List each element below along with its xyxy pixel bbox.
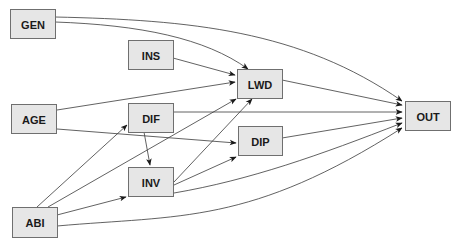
node-label: AGE [22,114,46,126]
edge-abi-to-inv [57,197,126,215]
node-abi: ABI [13,208,58,238]
node-label: OUT [416,111,440,123]
node-label: INS [142,50,160,62]
node-label: ABI [26,217,45,229]
edge-abi-to-dif [37,125,127,207]
edge-dip-to-out [282,118,402,138]
node-age: AGE [12,105,57,134]
edge-inv-to-out [174,123,402,193]
node-dip: DIP [239,127,283,156]
edge-lwd-to-out [282,80,402,105]
path-diagram: GENINSLWDOUTAGEDIFDIPINVABI [0,0,458,243]
edge-inv-to-dip [174,157,236,185]
node-dif: DIF [129,104,174,133]
node-out: OUT [406,102,451,131]
node-label: LWD [248,79,272,91]
node-inv: INV [129,168,174,197]
node-label: DIF [142,113,160,125]
node-label: INV [142,177,161,189]
node-label: DIP [251,136,269,148]
node-lwd: LWD [238,70,283,99]
edges-layer [37,17,402,226]
edge-gen-to-out [55,17,402,101]
nodes-layer: GENINSLWDOUTAGEDIFDIPINVABI [11,10,451,238]
edge-ins-to-lwd [173,58,235,75]
node-ins: INS [129,41,174,70]
node-label: GEN [21,19,45,31]
node-gen: GEN [11,10,56,39]
